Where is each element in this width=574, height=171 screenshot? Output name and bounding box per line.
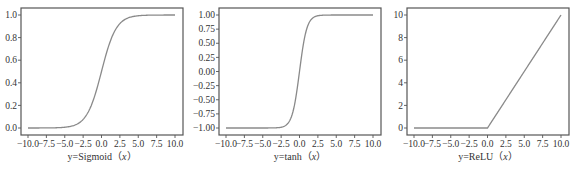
x-tick-label: −2.5 bbox=[273, 139, 290, 149]
y-tick-label: −0.50 bbox=[193, 95, 215, 105]
y-axis: −1.00−0.75−0.50−0.250.000.250.500.751.00 bbox=[193, 10, 219, 133]
y-tick-label: 0.2 bbox=[5, 101, 17, 111]
y-tick-label: 0.4 bbox=[5, 78, 17, 88]
y-tick-label: 0.00 bbox=[198, 67, 215, 77]
x-tick-label: −5.0 bbox=[442, 139, 459, 149]
x-tick-label: 7.5 bbox=[537, 139, 549, 149]
x-tick-label: 7.5 bbox=[349, 139, 361, 149]
x-tick-label: 10.0 bbox=[553, 139, 570, 149]
plot-frame bbox=[407, 8, 569, 135]
y-tick-label: 0.75 bbox=[198, 24, 215, 34]
tanh-curve bbox=[226, 15, 373, 128]
y-tick-label: −0.25 bbox=[193, 81, 215, 91]
x-tick-label: −10.0 bbox=[403, 139, 425, 149]
x-axis: −10.0−7.5−5.0−2.50.02.55.07.510.0 bbox=[215, 135, 382, 149]
x-tick-label: −7.5 bbox=[236, 139, 253, 149]
y-tick-label: 0.8 bbox=[5, 33, 17, 43]
x-tick-label: −7.5 bbox=[424, 139, 441, 149]
x-tick-label: −7.5 bbox=[38, 139, 55, 149]
chart-sigmoid: −10.0−7.5−5.0−2.50.02.55.07.510.0 0.00.2… bbox=[5, 8, 183, 162]
activation-functions-figure: −10.0−7.5−5.0−2.50.02.55.07.510.0 0.00.2… bbox=[0, 0, 574, 171]
x-axis: −10.0−7.5−5.0−2.50.02.55.07.510.0 bbox=[17, 135, 184, 149]
y-tick-label: 0.50 bbox=[198, 38, 215, 48]
x-axis-label: y=Sigmoid（x） bbox=[68, 151, 137, 162]
x-tick-label: 0.0 bbox=[96, 139, 108, 149]
y-tick-label: 0.25 bbox=[198, 53, 215, 63]
x-tick-label: −10.0 bbox=[17, 139, 39, 149]
x-tick-label: 2.5 bbox=[114, 139, 126, 149]
y-tick-label: −0.75 bbox=[193, 109, 215, 119]
x-axis: −10.0−7.5−5.0−2.50.02.55.07.510.0 bbox=[403, 135, 570, 149]
y-tick-label: 10 bbox=[394, 10, 404, 20]
chart-relu: −10.0−7.5−5.0−2.50.02.55.07.510.0 024681… bbox=[394, 8, 570, 162]
y-tick-label: 2 bbox=[398, 101, 403, 111]
y-tick-label: 0 bbox=[398, 123, 403, 133]
x-tick-label: −5.0 bbox=[254, 139, 271, 149]
x-tick-label: −5.0 bbox=[56, 139, 73, 149]
y-tick-label: 4 bbox=[398, 78, 403, 88]
y-tick-label: 1.0 bbox=[5, 10, 17, 20]
y-axis: 0.00.20.40.60.81.0 bbox=[5, 10, 21, 133]
chart-tanh: −10.0−7.5−5.0−2.50.02.55.07.510.0 −1.00−… bbox=[193, 8, 382, 162]
sigmoid-curve bbox=[28, 15, 175, 128]
y-tick-label: −1.00 bbox=[193, 123, 215, 133]
y-tick-label: 1.00 bbox=[198, 10, 215, 20]
relu-curve bbox=[414, 15, 561, 128]
x-tick-label: 0.0 bbox=[482, 139, 494, 149]
x-axis-label: y=tanh（x） bbox=[274, 151, 326, 162]
x-tick-label: 2.5 bbox=[312, 139, 324, 149]
x-tick-label: 2.5 bbox=[500, 139, 512, 149]
x-tick-label: 5.0 bbox=[330, 139, 342, 149]
y-axis: 0246810 bbox=[394, 10, 408, 133]
x-tick-label: 10.0 bbox=[167, 139, 184, 149]
y-tick-label: 0.6 bbox=[5, 55, 17, 65]
y-tick-label: 0.0 bbox=[5, 123, 17, 133]
y-tick-label: 6 bbox=[398, 55, 403, 65]
x-tick-label: −2.5 bbox=[75, 139, 92, 149]
x-tick-label: −10.0 bbox=[215, 139, 237, 149]
x-tick-label: −2.5 bbox=[461, 139, 478, 149]
x-tick-label: 10.0 bbox=[365, 139, 382, 149]
x-tick-label: 7.5 bbox=[151, 139, 163, 149]
x-axis-label: y=ReLU（x） bbox=[458, 151, 518, 162]
x-tick-label: 5.0 bbox=[132, 139, 144, 149]
y-tick-label: 8 bbox=[398, 33, 403, 43]
x-tick-label: 5.0 bbox=[518, 139, 530, 149]
x-tick-label: 0.0 bbox=[294, 139, 306, 149]
